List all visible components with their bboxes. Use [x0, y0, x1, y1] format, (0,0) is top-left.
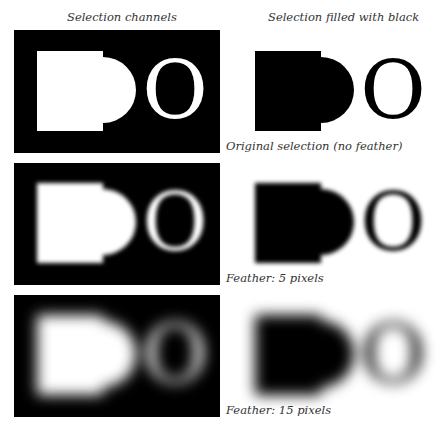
channel-panel-feather-15: O: [14, 295, 220, 417]
feather-comparison-figure: O O O O O O: [0, 0, 444, 434]
row-caption-feather-5: Feather: 5 pixels: [226, 273, 324, 285]
filled-panel-no-feather: O: [255, 44, 426, 137]
filled-panel-feather-5: O: [255, 176, 426, 269]
row-caption-no-feather: Original selection (no feather): [226, 141, 402, 153]
channel-panel-feather-5: O: [14, 163, 220, 285]
filled-panel-feather-15: O: [255, 308, 426, 401]
row-caption-feather-15: Feather: 15 pixels: [226, 405, 331, 417]
letter-o-glyph: O: [142, 176, 208, 269]
letter-o-glyph: O: [142, 44, 208, 137]
letter-o-glyph: O: [360, 176, 426, 269]
letter-o-glyph: O: [360, 44, 426, 137]
channel-panel-no-feather: O: [14, 30, 220, 153]
letter-o-glyph: O: [142, 308, 208, 401]
letter-o-glyph: O: [360, 308, 426, 401]
